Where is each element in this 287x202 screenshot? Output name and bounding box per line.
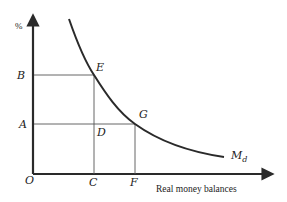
y-axis-label: %	[15, 21, 23, 31]
curve-label: Md	[230, 149, 247, 164]
tick-label-A: A	[18, 118, 27, 131]
point-label-G: G	[139, 108, 148, 121]
tick-label-C: C	[89, 176, 98, 189]
curve-label-main: M	[230, 149, 243, 162]
curve-label-sub: d	[242, 155, 247, 164]
money-demand-diagram: % B A O C F E G D Md Real money balances	[0, 0, 287, 202]
money-demand-curve	[69, 19, 224, 157]
origin-label: O	[25, 174, 34, 187]
x-axis-label: Real money balances	[156, 184, 237, 194]
point-label-E: E	[95, 61, 104, 74]
tick-label-F: F	[129, 176, 138, 189]
tick-label-B: B	[16, 69, 25, 82]
point-label-D: D	[96, 126, 106, 139]
